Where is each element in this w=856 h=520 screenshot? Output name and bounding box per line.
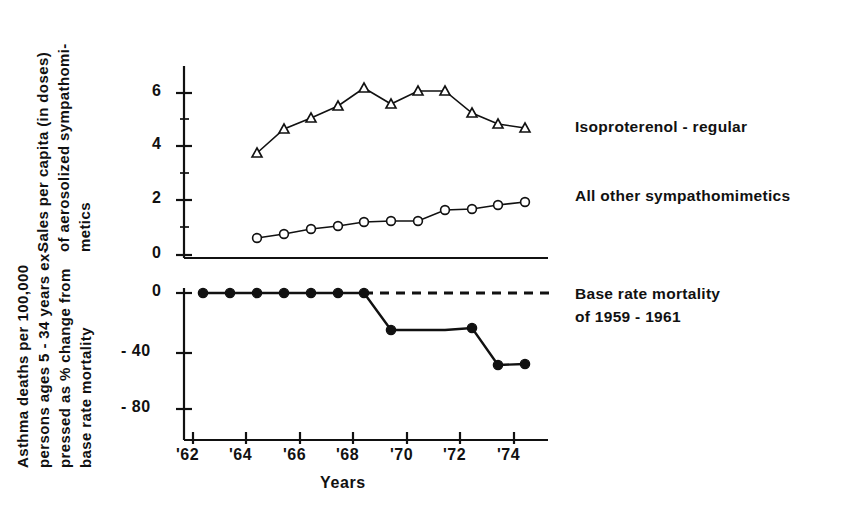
bottom-y-axis-title-line-2: persons ages 5 - 34 years ex- <box>35 248 52 468</box>
marker-open-circle <box>253 234 262 243</box>
marker-filled-circle <box>279 288 288 297</box>
marker-open-circle <box>334 222 343 231</box>
marker-filled-circle <box>252 288 261 297</box>
top-y-axis-title-line-3: metics <box>76 202 93 252</box>
marker-open-triangle <box>333 101 343 110</box>
top-y-axis-title-line-1: Sales per capita (in doses) <box>34 52 51 252</box>
legend-label-isoproterenol-regular: Isoproterenol - regular <box>575 116 747 138</box>
bottom-y-axis-title-line-1: Asthma deaths per 100,000 <box>14 265 31 468</box>
series-all-other-sympathomimetics <box>253 198 530 243</box>
top-ytick-label-2: 2 <box>152 189 161 207</box>
xtick-label-1966: '66 <box>283 446 306 464</box>
figure-root: Sales per capita (in doses) of aerosoliz… <box>0 0 856 520</box>
marker-filled-circle <box>198 288 207 297</box>
legend-label-base-rate-mortality-line-2: of 1959 - 1961 <box>575 306 681 328</box>
top-ytick-label-6: 6 <box>152 82 161 100</box>
marker-filled-circle <box>386 325 395 334</box>
legend-label-all-other-sympathomimetics: All other sympathomimetics <box>575 185 790 207</box>
marker-open-circle <box>387 217 396 226</box>
xtick-label-1974: '74 <box>497 446 520 464</box>
xtick-label-1964: '64 <box>229 446 252 464</box>
top-ytick-label-0: 0 <box>152 244 161 262</box>
marker-filled-circle <box>306 288 315 297</box>
legend-label-base-rate-mortality-line-1: Base rate mortality <box>575 283 720 305</box>
marker-open-circle <box>307 225 316 234</box>
marker-open-circle <box>360 218 369 227</box>
marker-filled-circle <box>520 359 529 368</box>
marker-open-triangle <box>279 124 289 133</box>
marker-open-circle <box>468 205 477 214</box>
marker-filled-circle <box>359 288 368 297</box>
top-panel-axes <box>176 66 548 258</box>
marker-open-triangle <box>386 99 396 108</box>
bottom-ytick-label-minus80: - 80 <box>121 398 151 416</box>
bottom-panel-axes <box>176 288 548 444</box>
marker-open-circle <box>441 206 450 215</box>
marker-filled-circle <box>225 288 234 297</box>
xtick-label-1968: '68 <box>336 446 359 464</box>
plot-canvas <box>0 0 856 520</box>
marker-open-circle <box>280 230 289 239</box>
marker-filled-circle <box>467 323 476 332</box>
bottom-ytick-label-0: 0 <box>152 282 161 300</box>
marker-filled-circle <box>333 288 342 297</box>
series-asthma-death-rate <box>198 288 529 369</box>
x-axis-title: Years <box>320 474 366 492</box>
marker-open-triangle <box>359 83 369 92</box>
xtick-label-1970: '70 <box>390 446 413 464</box>
marker-filled-circle <box>493 360 502 369</box>
bottom-y-axis-title-line-4: base rate mortality <box>77 327 94 468</box>
series-isoproterenol-regular <box>252 83 530 157</box>
xtick-label-1962: '62 <box>176 446 199 464</box>
marker-open-triangle <box>493 119 503 128</box>
xtick-label-1972: '72 <box>443 446 466 464</box>
top-y-axis-title-line-2: of aerosolized sympathomi- <box>55 43 72 252</box>
marker-open-triangle <box>306 113 316 122</box>
marker-open-circle <box>494 201 503 210</box>
top-ytick-label-4: 4 <box>152 135 161 153</box>
bottom-ytick-label-minus40: - 40 <box>121 342 151 360</box>
bottom-y-axis-title-line-3: pressed as % change from <box>56 268 73 468</box>
marker-open-circle <box>414 217 423 226</box>
marker-open-circle <box>521 198 530 207</box>
